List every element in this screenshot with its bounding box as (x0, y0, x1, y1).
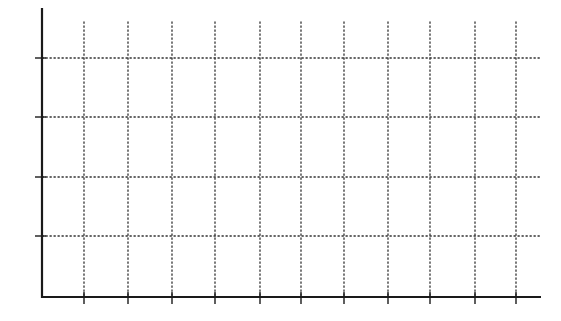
vertical-gridlines (84, 22, 516, 297)
y-axis-ticks (35, 58, 46, 236)
blank-chart-grid (0, 0, 561, 321)
horizontal-gridlines (42, 58, 540, 236)
